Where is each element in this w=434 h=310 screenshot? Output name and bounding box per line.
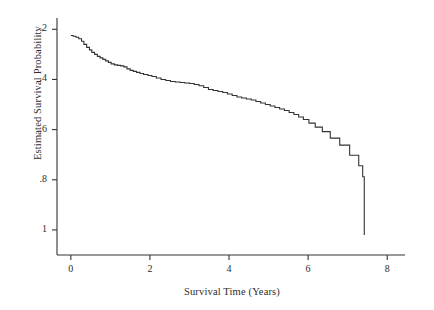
y-tick-label: .6 [27,123,47,134]
y-axis-ticks [52,29,57,230]
survival-curve-line [71,36,364,235]
x-axis-ticks [71,255,387,260]
x-axis-title: Survival Time (Years) [57,286,407,297]
survival-chart-figure: Estimated Survival Probability Survival … [0,0,434,310]
x-tick-label: 8 [377,263,397,274]
y-tick-label: 1 [27,223,47,234]
y-tick-label: .8 [27,173,47,184]
x-tick-label: 0 [61,263,81,274]
x-tick-label: 4 [219,263,239,274]
x-tick-label: 2 [140,263,160,274]
y-tick-label: .4 [27,72,47,83]
x-tick-label: 6 [298,263,318,274]
y-tick-label: .2 [27,22,47,33]
